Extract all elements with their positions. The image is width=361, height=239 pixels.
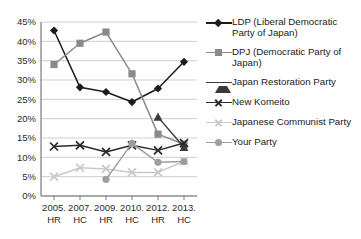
x-marker-icon: [206, 117, 232, 129]
series-line: [54, 161, 184, 176]
square-marker-icon: [206, 47, 232, 59]
y-axis-tick-label: 25%: [17, 94, 37, 105]
x-marker-icon: [206, 97, 232, 109]
circle-marker-icon: [206, 137, 232, 149]
x-axis-tick-label: HR: [47, 214, 61, 225]
legend-item-label: LDP (Liberal Democratic Party of Japan): [232, 16, 358, 39]
legend-item-jcp[interactable]: Japanese Communist Party: [206, 116, 358, 129]
x-axis-tick-label: HC: [125, 214, 139, 225]
data-point-marker: [102, 88, 110, 96]
chart-legend: LDP (Liberal Democratic Party of Japan)D…: [206, 16, 358, 156]
legend-item-label: Japanese Communist Party: [232, 116, 351, 127]
y-axis-tick-label: 5%: [22, 171, 36, 182]
data-point-marker: [50, 61, 57, 68]
x-axis-tick-label: 2009.: [94, 202, 118, 213]
series-line: [158, 117, 184, 147]
data-point-marker: [76, 40, 83, 47]
data-point-marker: [102, 28, 109, 35]
legend-item-label: Your Party: [232, 136, 277, 147]
data-point-marker: [180, 158, 187, 165]
data-point-marker: [154, 113, 163, 121]
triangle-marker-icon: [206, 77, 232, 89]
x-axis-tick-label: HC: [73, 214, 87, 225]
legend-item-label: New Komeito: [232, 96, 290, 107]
data-point-marker: [154, 131, 161, 138]
data-point-marker: [50, 26, 58, 34]
x-axis-tick-label: 2013.: [172, 202, 196, 213]
legend-item-your-party[interactable]: Your Party: [206, 136, 358, 149]
x-axis-tick-label: HC: [177, 214, 191, 225]
x-axis-tick-label: 2012.: [146, 202, 170, 213]
data-point-marker: [128, 70, 135, 77]
chart-container: 0%5%10%15%20%25%30%35%40%45%2005.HR2007.…: [0, 0, 361, 239]
x-axis-tick-label: 2010.: [120, 202, 144, 213]
y-axis-tick-label: 0%: [22, 190, 36, 201]
series-new-komeito: [50, 139, 188, 156]
diamond-marker-icon: [206, 17, 232, 29]
series-ldp: [50, 26, 188, 106]
y-axis-tick-label: 45%: [17, 16, 37, 27]
data-point-marker: [102, 176, 109, 183]
legend-item-dpj[interactable]: DPJ (Democratic Party of Japan): [206, 46, 358, 69]
y-axis-tick-label: 40%: [17, 36, 37, 47]
y-axis-tick-label: 35%: [17, 55, 37, 66]
data-point-marker: [128, 140, 135, 147]
x-axis-tick-label: HR: [99, 214, 113, 225]
legend-item-jrp[interactable]: Japan Restoration Party: [206, 76, 358, 89]
y-axis-tick-label: 15%: [17, 132, 37, 143]
y-axis-tick-label: 30%: [17, 74, 37, 85]
legend-item-ldp[interactable]: LDP (Liberal Democratic Party of Japan): [206, 16, 358, 39]
legend-item-label: DPJ (Democratic Party of Japan): [232, 46, 358, 69]
data-point-marker: [154, 159, 161, 166]
x-axis-tick-label: 2007.: [68, 202, 92, 213]
series-line: [54, 143, 184, 152]
data-point-marker: [76, 83, 84, 91]
x-axis-tick-label: 2005.: [42, 202, 66, 213]
y-axis-tick-label: 10%: [17, 152, 37, 163]
y-axis-tick-label: 20%: [17, 113, 37, 124]
series-dpj: [50, 28, 187, 147]
legend-item-label: Japan Restoration Party: [232, 76, 336, 87]
series-line: [54, 32, 184, 144]
line-chart: 0%5%10%15%20%25%30%35%40%45%2005.HR2007.…: [0, 0, 206, 239]
legend-item-new-komeito[interactable]: New Komeito: [206, 96, 358, 109]
x-axis-tick-label: HR: [151, 214, 165, 225]
